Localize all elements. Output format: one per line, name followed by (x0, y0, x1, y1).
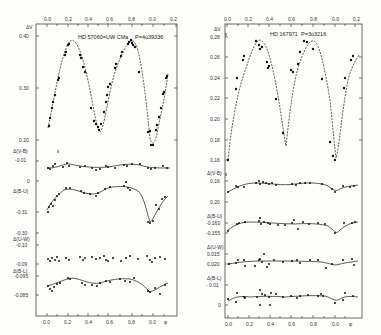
right-top-axis: 0.0 0.2 0.4 0.6 0.8 0.0 0.2 (224, 16, 360, 27)
right-period: P=3ú3216 (301, 31, 326, 37)
svg-text:0.2: 0.2 (245, 16, 252, 22)
svg-text:0.40: 0.40 (19, 33, 29, 39)
svg-text:0.020: 0.020 (207, 261, 220, 267)
right-bottom-axis: 0.0 0.2 0.4 0.6 0.8 0.0 φ (225, 315, 353, 327)
svg-text:0.6: 0.6 (288, 16, 295, 22)
svg-text:Δ(B-U): Δ(B-U) (207, 213, 223, 219)
svg-text:-0.31: -0.31 (16, 209, 28, 215)
svg-text:0.2: 0.2 (170, 16, 177, 22)
svg-text:φ: φ (349, 321, 353, 327)
svg-text:-0.085: -0.085 (14, 292, 28, 298)
svg-text:0.20: 0.20 (19, 137, 29, 143)
left-period: P=4ú39336 (135, 34, 163, 40)
svg-text:0.0: 0.0 (332, 321, 339, 327)
svg-text:0.0: 0.0 (44, 16, 51, 22)
left-bottom-axis: 0.0 0.2 0.4 0.6 0.8 0.0 φ (43, 313, 168, 325)
svg-text:0.24: 0.24 (210, 75, 220, 81)
svg-text:Δ(V-B): Δ(V-B) (207, 170, 222, 176)
svg-text:0.0: 0.0 (149, 319, 156, 325)
right-dv-points (226, 33, 354, 176)
svg-text:0.20: 0.20 (210, 199, 220, 205)
svg-text:0.4: 0.4 (85, 16, 92, 22)
svg-text:0.0: 0.0 (149, 16, 156, 22)
svg-text:-0.095: -0.095 (14, 273, 28, 279)
right-uw-fit (228, 261, 358, 265)
svg-text:0.2: 0.2 (64, 319, 71, 325)
svg-text:0.8: 0.8 (310, 16, 317, 22)
right-uw-points (228, 253, 355, 269)
svg-text:0.2: 0.2 (65, 16, 72, 22)
svg-text:Δ(U-W): Δ(U-W) (207, 244, 224, 250)
svg-text:-0.01: -0.01 (15, 157, 27, 163)
svg-text:Δ(V-B): Δ(V-B) (13, 148, 28, 154)
svg-text:0.6: 0.6 (106, 16, 113, 22)
svg-text:0.4: 0.4 (85, 319, 92, 325)
left-bl-fit (47, 278, 168, 292)
svg-text:0.16: 0.16 (210, 178, 220, 184)
left-frame (36, 24, 177, 316)
svg-text:Δ(B-U): Δ(B-U) (13, 188, 29, 194)
svg-text:0: 0 (27, 178, 30, 184)
left-dv-fit (48, 40, 168, 143)
right-panel: 0.0 0.2 0.4 0.6 0.8 0.0 0.2 0.0 0.2 0.4 … (206, 16, 362, 327)
svg-text:0.2: 0.2 (246, 321, 253, 327)
svg-text:0.0: 0.0 (224, 16, 231, 22)
svg-text:φ: φ (164, 319, 168, 325)
left-vb-points (47, 162, 168, 171)
svg-text:0.8: 0.8 (310, 321, 317, 327)
right-bu-fit (228, 222, 358, 233)
left-bu-fit (47, 186, 168, 222)
svg-text:0.6: 0.6 (288, 321, 295, 327)
left-uw-points (47, 255, 166, 263)
figure-canvas: 0.0 0.2 0.4 0.6 0.8 0.0 0.2 0.0 0.2 0.4 … (0, 0, 381, 335)
svg-text:ΔV: ΔV (214, 26, 221, 32)
svg-text:-0.09: -0.09 (16, 261, 28, 267)
svg-text:-0.155: -0.155 (206, 230, 220, 236)
svg-text:0.22: 0.22 (210, 95, 220, 101)
svg-text:0.30: 0.30 (19, 85, 29, 91)
right-vb-fit (228, 183, 358, 192)
svg-text:- 0.01: - 0.01 (206, 282, 219, 288)
svg-text:ΔV: ΔV (26, 24, 33, 30)
svg-text:0: 0 (218, 302, 221, 308)
svg-text:0.8: 0.8 (128, 16, 135, 22)
right-bl-points (227, 289, 354, 306)
svg-text:0.0: 0.0 (43, 319, 50, 325)
svg-text:0.4: 0.4 (267, 321, 274, 327)
svg-text:0.18: 0.18 (210, 137, 220, 143)
svg-text:-0.10: -0.10 (16, 242, 28, 248)
svg-text:0.26: 0.26 (210, 54, 220, 60)
svg-text:0.2: 0.2 (353, 16, 360, 22)
svg-text:0.8: 0.8 (128, 319, 135, 325)
right-star-title: HD 167971 (270, 31, 298, 37)
svg-text:Δ(B-L): Δ(B-L) (207, 275, 222, 281)
svg-text:0.0: 0.0 (332, 16, 339, 22)
right-bl-fit (228, 296, 358, 301)
right-bu-points (227, 217, 356, 234)
left-bu-points (47, 181, 166, 224)
right-vb-points (227, 180, 355, 193)
svg-text:0.28: 0.28 (210, 34, 220, 40)
svg-text:0.0: 0.0 (225, 321, 232, 327)
svg-text:0.6: 0.6 (106, 319, 113, 325)
svg-text:-0.160: -0.160 (206, 220, 220, 226)
svg-text:0.4: 0.4 (266, 16, 273, 22)
left-top-axis: 0.0 0.2 0.4 0.6 0.8 0.0 0.2 (44, 16, 177, 27)
left-panel: 0.0 0.2 0.4 0.6 0.8 0.0 0.2 0.0 0.2 0.4 … (13, 16, 177, 325)
svg-text:0.16: 0.16 (210, 157, 220, 163)
svg-text:0.20: 0.20 (210, 116, 220, 122)
right-dv-fit (228, 40, 359, 160)
svg-text:0.015: 0.015 (207, 251, 220, 257)
left-star-title: HD 57060=UW CMa (78, 34, 129, 40)
